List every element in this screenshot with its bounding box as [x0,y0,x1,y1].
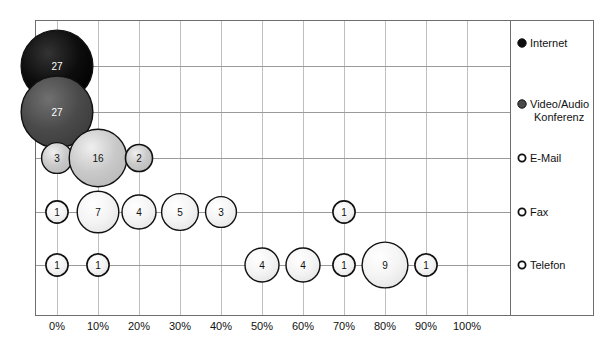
bubble-value-label: 1 [341,260,347,271]
bubble-fax-0pct[interactable]: 1 [46,201,68,223]
bubble-value-label: 2 [136,153,142,164]
bubble-value-label: 9 [382,260,388,271]
legend-item-telefon[interactable]: Telefon [518,259,565,271]
bubble-value-label: 27 [51,61,63,72]
bubble-telefon-10pct[interactable]: 1 [87,254,109,276]
bubble-chart: 272731621745311144191 0%10%20%30%40%50%6… [0,0,608,342]
x-tick-label-50pct: 50% [251,320,273,332]
legend-label-line2: Konferenz [534,111,584,123]
x-tick-label-80pct: 80% [374,320,396,332]
bubble-telefon-60pct[interactable]: 4 [286,248,320,282]
bubbles-layer: 272731621745311144191 [21,30,437,288]
x-tick-label-70pct: 70% [333,320,355,332]
legend-dot-open-icon [518,154,525,161]
legend-label: Internet [530,37,567,49]
bubble-value-label: 1 [54,207,60,218]
bubble-e-mail-20pct[interactable]: 2 [125,144,152,171]
bubble-value-label: 1 [341,207,347,218]
bubble-value-label: 5 [177,207,183,218]
bubble-telefon-90pct[interactable]: 1 [415,254,437,276]
bubble-value-label: 3 [218,207,224,218]
legend-item-e-mail[interactable]: E-Mail [518,152,561,164]
bubble-value-label: 27 [51,107,63,118]
x-tick-label-0pct: 0% [49,320,65,332]
bubble-value-label: 1 [423,260,429,271]
bubble-value-label: 4 [136,207,142,218]
x-tick-label-100pct: 100% [453,320,481,332]
legend-item-fax[interactable]: Fax [518,206,548,218]
legend-label: Telefon [530,259,565,271]
bubble-value-label: 16 [92,153,104,164]
bubble-telefon-50pct[interactable]: 4 [245,248,279,282]
bubble-telefon-0pct[interactable]: 1 [46,254,68,276]
bubble-e-mail-0pct[interactable]: 3 [42,143,73,174]
x-tick-label-90pct: 90% [415,320,437,332]
chart-canvas: 272731621745311144191 0%10%20%30%40%50%6… [0,0,608,342]
x-tick-label-30pct: 30% [169,320,191,332]
x-tick-label-40pct: 40% [210,320,232,332]
bubble-fax-10pct[interactable]: 7 [77,191,119,233]
bubble-value-label: 1 [54,260,60,271]
bubble-value-label: 7 [95,207,101,218]
bubble-value-label: 1 [95,260,101,271]
legend-label: E-Mail [530,152,561,164]
legend-dot-open-icon [518,261,525,268]
legend-label: Fax [530,206,549,218]
legend-dot-darkgray-icon [518,100,526,108]
x-tick-label-60pct: 60% [292,320,314,332]
bubble-value-label: 3 [54,153,60,164]
bubble-e-mail-10pct[interactable]: 16 [69,129,127,187]
bubble-telefon-80pct[interactable]: 9 [362,242,408,288]
x-tick-label-20pct: 20% [128,320,150,332]
legend-label: Video/Audio [530,98,589,110]
bubble-fax-40pct[interactable]: 3 [206,197,237,228]
legend-dot-open-icon [518,208,525,215]
x-tick-label-10pct: 10% [87,320,109,332]
legend-item-video-audio-konferenz[interactable]: Video/AudioKonferenz [518,98,589,123]
legend: InternetVideo/AudioKonferenzE-MailFaxTel… [518,37,589,271]
bubble-value-label: 4 [300,260,306,271]
bubble-fax-70pct[interactable]: 1 [333,201,355,223]
bubble-telefon-70pct[interactable]: 1 [333,254,355,276]
x-axis-tick-labels: 0%10%20%30%40%50%60%70%80%90%100% [49,320,481,332]
bubble-fax-30pct[interactable]: 5 [162,194,199,231]
legend-dot-filled-icon [518,39,526,47]
legend-item-internet[interactable]: Internet [518,37,568,49]
bubble-value-label: 4 [259,260,265,271]
bubble-fax-20pct[interactable]: 4 [122,195,156,229]
